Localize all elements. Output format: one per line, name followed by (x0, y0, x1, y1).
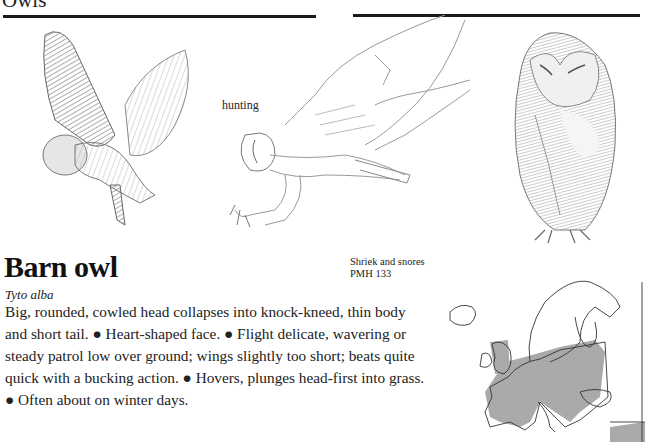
section-title: Owls (2, 0, 46, 13)
species-common-name: Barn owl (4, 252, 118, 282)
voice-description: Shriek and snores (350, 256, 425, 268)
page-reference: PMH 133 (350, 268, 425, 280)
header-rule-far-right (440, 14, 640, 17)
flying-owl-illustration (25, 25, 195, 235)
perched-owl-illustration (500, 25, 625, 250)
voice-note: Shriek and snores PMH 133 (350, 256, 425, 280)
hunting-owl-illustration (215, 15, 470, 240)
species-description: Big, rounded, cowled head collapses into… (5, 301, 425, 411)
range-map (430, 262, 651, 442)
hunting-caption: hunting (222, 98, 259, 113)
